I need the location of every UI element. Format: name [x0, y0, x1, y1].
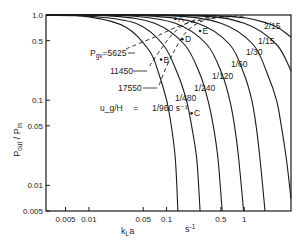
annotation-label: E [203, 26, 209, 36]
series-curve [46, 15, 291, 37]
y-axis-title: Pout / Pin [12, 123, 23, 157]
x-tick-label: 0.1 [161, 215, 173, 224]
parameter-label: u_g/H [100, 103, 123, 113]
y-axis-title-sub-out: out [16, 142, 23, 151]
y-tick-label: 1.0 [32, 11, 44, 20]
pressure-label-5625: Pgv=5625 [90, 48, 127, 60]
curve-label-1-240: 1/240 [194, 83, 216, 93]
x-tick-label: 0.005 [56, 215, 77, 224]
y-tick-label: 0.005 [23, 207, 44, 216]
annotation-label: A [178, 14, 184, 24]
pressure-label-17550: 17550 [118, 83, 142, 93]
annotation-label: C [194, 108, 200, 118]
pressure-label-11450: 11450 [110, 66, 133, 76]
annotation-point [199, 30, 202, 33]
annotation-label: D [185, 34, 191, 44]
x-tick-label: 0.5 [215, 215, 227, 224]
curve-label-1-480: 1/480 [175, 93, 197, 103]
y-axis-title-sub-in: in [16, 123, 23, 128]
curve-label-1-30: 1/30 [246, 47, 263, 57]
x-axis-unit: s-1 [185, 223, 196, 234]
annotation-point [174, 18, 177, 21]
parameter-label-text: u_g/H [100, 103, 123, 113]
x-axis-ticks: 0.0050.010.050.10.51 [56, 207, 247, 224]
y-tick-label: 0.05 [27, 122, 43, 131]
annotation-point [181, 38, 184, 41]
x-axis-title: kLa [121, 226, 134, 237]
curve-label-1-15: 1/15 [258, 36, 275, 46]
series-curve [46, 15, 178, 211]
curve-label-1-960: 1/960 s⁻¹ [152, 103, 188, 113]
y-tick-label: 0.1 [32, 96, 44, 105]
y-tick-label: 0.5 [32, 37, 44, 46]
y-axis-title-slash: / P [12, 128, 22, 142]
x-axis-unit-exp: -1 [190, 223, 196, 230]
x-axis-title-a: a [129, 226, 134, 236]
curve-label-2-15: 2/15 [264, 21, 281, 31]
curve-label-1-60: 1/60 [231, 59, 248, 69]
x-tick-label: 0.05 [135, 215, 151, 224]
annotation-label: B [164, 55, 170, 65]
curve-label-1-120: 1/120 [212, 71, 234, 81]
x-tick-label: 0.01 [81, 215, 97, 224]
y-tick-label: 0.01 [27, 181, 43, 190]
pressure-label-value: =5625 [103, 48, 127, 58]
x-tick-label: 1 [242, 215, 247, 224]
parameter-equals: = [133, 103, 138, 113]
annotation-point [190, 112, 193, 115]
annotation-point [160, 58, 163, 61]
chart: 1.00.50.10.050.010.005 0.0050.010.050.10… [0, 0, 305, 248]
